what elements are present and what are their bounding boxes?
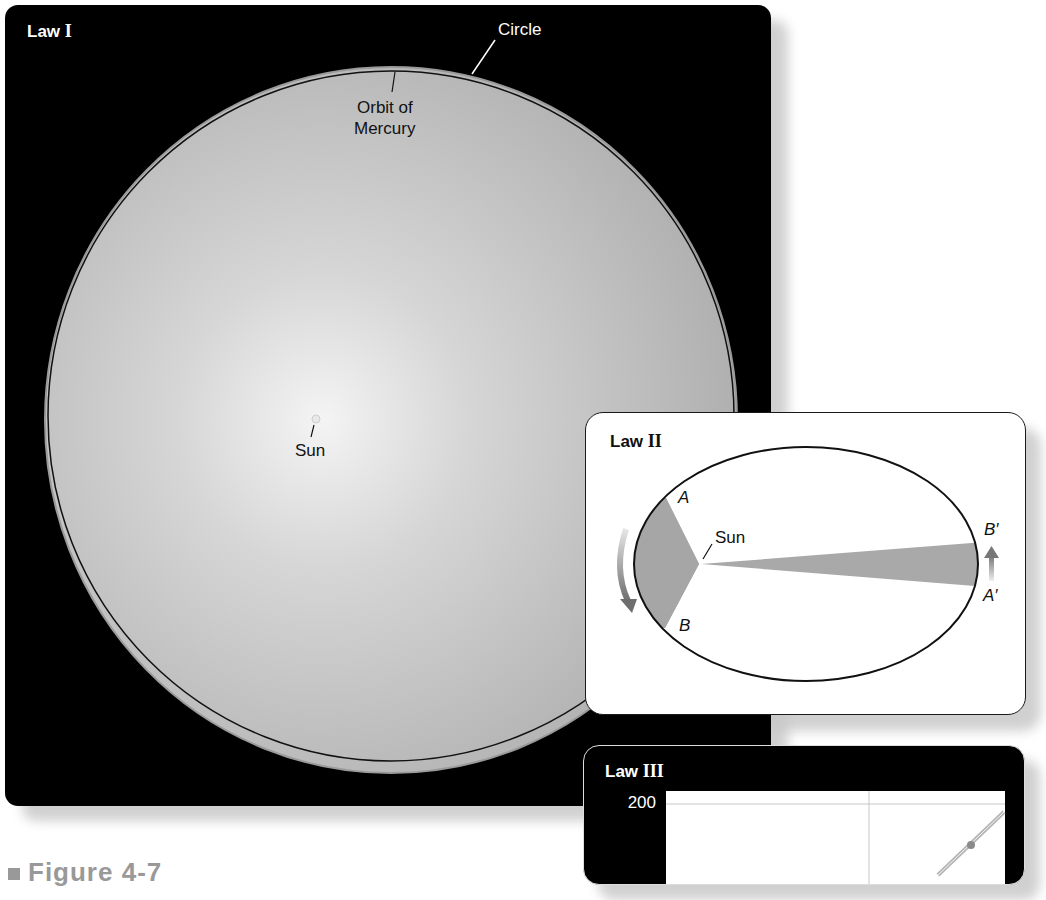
plot-area — [666, 791, 1005, 885]
label-b-prime: B′ — [984, 520, 999, 539]
label-b: B — [679, 616, 690, 635]
law2-panel: Law II A B Sun B′ A′ — [585, 412, 1026, 715]
label-a-prime: A′ — [982, 586, 998, 605]
sun-dot — [312, 415, 320, 423]
circle-label: Circle — [498, 20, 541, 39]
data-point — [967, 841, 975, 849]
orbit-label-line2: Mercury — [354, 119, 416, 138]
sun-label: Sun — [295, 441, 325, 460]
sun-leader-line-2 — [703, 544, 712, 559]
sector-ab-fill — [601, 498, 699, 628]
law2-diagram: A B Sun B′ A′ — [586, 413, 1027, 716]
law3-panel: Law III 200 — [583, 745, 1025, 885]
caption-text: Figure 4-7 — [28, 857, 162, 887]
law3-chart — [584, 746, 1025, 885]
caption-bullet-icon — [8, 868, 20, 880]
orbit-label-line1: Orbit of — [357, 98, 413, 117]
figure-caption: Figure 4-7 — [8, 857, 162, 888]
sun-label-2: Sun — [715, 528, 745, 547]
circle-leader-line — [472, 40, 495, 74]
sector-a-prime-b-prime — [701, 542, 986, 587]
orbit-direction-arrow-right-icon — [984, 546, 999, 581]
label-a: A — [677, 488, 689, 507]
